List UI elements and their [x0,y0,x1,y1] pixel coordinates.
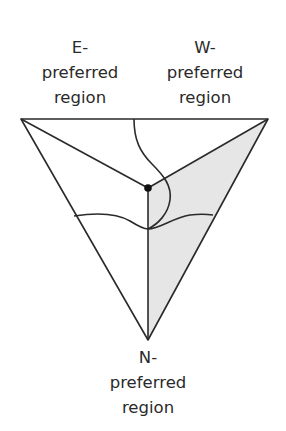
center-point [144,184,152,192]
triangle-diagram [0,0,286,431]
